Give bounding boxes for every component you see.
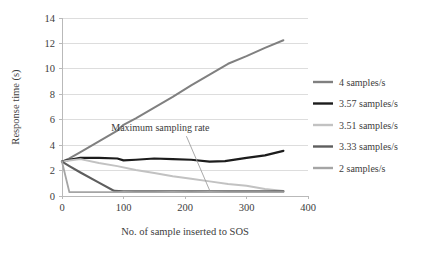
y-tick-label: 8 — [50, 89, 55, 100]
y-axis-tick-labels: 02468101214 — [45, 13, 56, 202]
series-line-3-51-samples-s — [62, 159, 283, 191]
line-chart: 02468101214 0100200300400 Maximum sampli… — [0, 0, 423, 254]
x-tick-label: 0 — [59, 202, 64, 213]
series-line-4-samples-s — [62, 40, 283, 161]
series-lines-group — [62, 40, 283, 192]
x-tick-label: 400 — [300, 202, 316, 213]
x-tick-label: 300 — [239, 202, 255, 213]
legend: 4 samples/s3.57 samples/s3.51 samples/s3… — [313, 77, 398, 174]
y-tick-label: 14 — [45, 13, 56, 24]
x-tick-label: 100 — [116, 202, 132, 213]
y-tick-label: 12 — [45, 38, 56, 49]
y-tick-label: 0 — [50, 191, 55, 202]
chart-container: 02468101214 0100200300400 Maximum sampli… — [0, 0, 423, 254]
annotation-label: Maximum sampling rate — [111, 122, 210, 133]
x-tick-label: 200 — [177, 202, 193, 213]
legend-label-4[interactable]: 2 samples/s — [339, 163, 385, 174]
legend-label-1[interactable]: 3.57 samples/s — [339, 98, 398, 109]
annotation-leader-line — [186, 136, 209, 190]
y-tick-label: 10 — [45, 63, 56, 74]
y-axis-title: Response time (s) — [10, 69, 22, 145]
y-tick-label: 4 — [50, 140, 56, 151]
x-axis-title: No. of sample inserted to SOS — [121, 226, 249, 237]
y-tick-label: 6 — [50, 114, 55, 125]
series-line-3-57-samples-s — [62, 151, 283, 162]
legend-label-3[interactable]: 3.33 samples/s — [339, 141, 398, 152]
y-tick-label: 2 — [50, 165, 55, 176]
x-axis-tick-labels: 0100200300400 — [59, 202, 316, 213]
legend-label-2[interactable]: 3.51 samples/s — [339, 120, 398, 131]
legend-label-0[interactable]: 4 samples/s — [339, 77, 385, 88]
